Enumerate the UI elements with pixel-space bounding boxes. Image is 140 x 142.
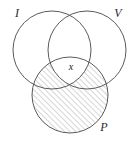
set-label-v: V (114, 6, 123, 20)
venn-diagram-canvas: I V P x (0, 0, 140, 142)
set-label-p: P (99, 120, 108, 134)
set-label-i: I (14, 6, 20, 20)
element-label-x: x (68, 61, 74, 72)
venn-diagram-figure: I V P x (0, 0, 140, 142)
